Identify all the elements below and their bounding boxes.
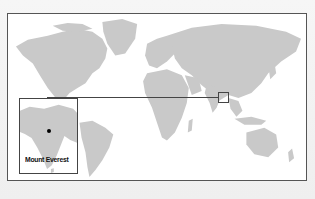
mount-everest-marker-icon (47, 129, 51, 133)
inset-map: Mount Everest (19, 98, 78, 174)
location-label: Mount Everest (25, 155, 69, 164)
madagascar (188, 119, 193, 133)
south-america (80, 121, 114, 177)
arctic-islands (53, 23, 93, 32)
southeast-asia (229, 98, 243, 117)
inset-sri-lanka (51, 168, 54, 173)
indonesia (234, 117, 266, 125)
greenland (102, 19, 137, 56)
africa (143, 69, 189, 140)
new-zealand (288, 148, 294, 162)
himalaya-highlight-box (218, 92, 229, 103)
australia (246, 128, 278, 158)
north-america (16, 29, 107, 105)
